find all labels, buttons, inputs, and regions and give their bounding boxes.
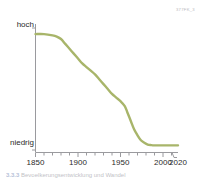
- x-axis-ticks: [36, 153, 179, 158]
- x-axis-tick-label: 1900: [69, 158, 87, 167]
- figure-caption: 3.3.3 Bevoelkerungsentwicklung und Wande…: [6, 172, 196, 181]
- y-axis-label-low: niedrig: [10, 138, 34, 147]
- y-axis-ticks: [32, 28, 36, 150]
- y-axis-label-high: hoch: [17, 20, 34, 29]
- x-axis-tick-label: 1950: [112, 158, 130, 167]
- x-axis-tick-label: 2020: [169, 158, 187, 167]
- caption-number: 3.3.3: [6, 172, 19, 178]
- data-series-line: [36, 34, 179, 145]
- x-axis-break-hook: [172, 153, 177, 158]
- x-axis-tick-label: 1850: [27, 158, 45, 167]
- caption-text: Bevoelkerungsentwicklung und Wandel: [21, 172, 126, 178]
- figure-container: 377FK_3 hoch niedrig 1850190019502000202…: [0, 0, 200, 181]
